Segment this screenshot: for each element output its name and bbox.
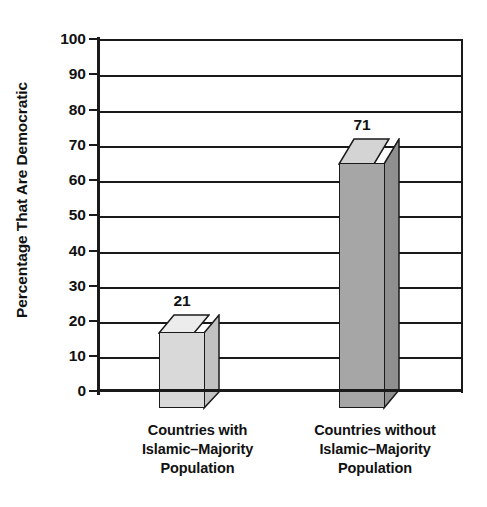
category-label-2-line3: Population: [277, 459, 473, 478]
category-label-1-line2: Islamic–Majority: [105, 440, 290, 459]
gridline-60: [99, 181, 461, 183]
y-tick-label-30: 30: [44, 278, 86, 294]
gridline-30: [99, 287, 461, 289]
bar-front-face-2: [339, 163, 385, 408]
y-tick-label-40: 40: [44, 243, 86, 259]
y-tick-label-20: 20: [44, 313, 86, 329]
y-tick-label-80: 80: [44, 102, 86, 118]
y-tick-label-0: 0: [44, 383, 86, 399]
y-tick-label-90: 90: [44, 66, 86, 82]
y-axis-tick-labels: 100 90 80 70 60 50 40 30 20 10 0: [44, 0, 86, 507]
category-label-1: Countries with Islamic–Majority Populati…: [105, 421, 290, 478]
x-axis-line: [97, 389, 463, 392]
bar-value-label-2: 71: [337, 116, 387, 134]
category-label-1-line1: Countries with: [105, 421, 290, 440]
bar-side-face-1: [203, 314, 225, 410]
y-tick-label-50: 50: [44, 207, 86, 223]
gridline-40: [99, 252, 461, 254]
gridline-10: [99, 357, 461, 359]
gridline-80: [99, 111, 461, 113]
gridline-90: [99, 75, 461, 77]
bar-front-face-1: [159, 332, 205, 408]
category-label-2: Countries without Islamic–Majority Popul…: [277, 421, 473, 478]
y-axis-title-text: Percentage That Are Democratic: [13, 82, 31, 318]
category-label-1-line3: Population: [105, 459, 290, 478]
category-label-2-line1: Countries without: [277, 421, 473, 440]
y-axis-title: Percentage That Are Democratic: [0, 0, 44, 400]
plot-area: [99, 39, 463, 393]
y-tick-label-60: 60: [44, 172, 86, 188]
gridline-50: [99, 216, 461, 218]
gridline-20: [99, 322, 461, 324]
gridline-70: [99, 146, 461, 148]
bar-side-face-2: [383, 138, 405, 410]
bar-chart: Percentage That Are Democratic 100 90 80…: [0, 0, 487, 507]
category-label-2-line2: Islamic–Majority: [277, 440, 473, 459]
bar-value-label-1: 21: [157, 292, 207, 310]
y-tick-label-100: 100: [44, 31, 86, 47]
y-axis-line: [97, 37, 100, 395]
y-tick-label-10: 10: [44, 348, 86, 364]
y-tick-label-70: 70: [44, 137, 86, 153]
